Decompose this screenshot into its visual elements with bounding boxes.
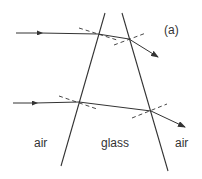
panel-label: (a)	[164, 24, 179, 36]
region-label-right-air: air	[175, 137, 188, 149]
lower-incident-ray	[13, 102, 79, 103]
upper-emergent-ray	[129, 39, 158, 57]
region-label-glass: glass	[101, 137, 129, 149]
lower-emergent-ray	[151, 111, 185, 127]
refraction-diagram: (a) air glass air	[0, 0, 202, 179]
lower-refracted-ray	[79, 102, 151, 111]
upper-incident-ray	[16, 33, 98, 34]
upper-refracted-ray	[98, 34, 129, 39]
region-label-left-air: air	[34, 137, 47, 149]
glass-left-boundary	[61, 13, 105, 166]
upper-normal-right	[114, 33, 146, 45]
